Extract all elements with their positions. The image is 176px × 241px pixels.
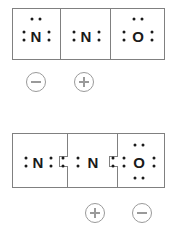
lone-pair-dot (123, 165, 126, 168)
lone-pair-dot (77, 165, 80, 168)
lone-pair-dot (77, 157, 80, 160)
lone-pair-dot (153, 157, 156, 160)
lone-pair-dot (50, 157, 53, 160)
lone-pair-dot (123, 157, 126, 160)
lone-pair-dot (48, 31, 51, 34)
lone-pair-dot (141, 18, 144, 21)
lone-pair-dot (31, 18, 34, 21)
lone-pair-dot (48, 39, 51, 42)
atom-label-oxygen-right: O (133, 154, 145, 171)
lone-pair-dot (112, 165, 115, 168)
lone-pair-dot (151, 39, 154, 42)
atom-label-nitrogen-center: N (81, 28, 92, 45)
lone-pair-dot (98, 31, 101, 34)
resonance-structure-2: N N O (12, 133, 165, 188)
plus-icon (94, 208, 95, 218)
lone-pair-dot (142, 177, 145, 180)
atom-label-nitrogen-left: N (33, 154, 44, 171)
resonance-structure-1: N N O (12, 8, 165, 60)
lone-pair-dot (62, 157, 65, 160)
lewis-structure-diagram: N N O (0, 0, 176, 241)
lone-pair-dot (134, 177, 137, 180)
lone-pair-dot (25, 165, 28, 168)
lone-pair-dot (142, 144, 145, 147)
lone-pair-dot (134, 144, 137, 147)
lone-pair-dot (151, 31, 154, 34)
lone-pair-dot (98, 39, 101, 42)
formal-charge-positive (74, 72, 94, 92)
lone-pair-dot (50, 165, 53, 168)
lone-pair-dot (39, 18, 42, 21)
lone-pair-dot (123, 31, 126, 34)
formal-charge-negative (132, 203, 152, 223)
lone-pair-dot (123, 39, 126, 42)
lone-pair-dot (153, 165, 156, 168)
lone-pair-dot (62, 165, 65, 168)
plus-icon (83, 77, 84, 87)
lone-pair-dot (73, 39, 76, 42)
atom-label-nitrogen-center: N (88, 154, 99, 171)
formal-charge-negative (26, 72, 46, 92)
atom-label-nitrogen-left: N (31, 28, 42, 45)
lone-pair-dot (23, 31, 26, 34)
lone-pair-dot (73, 31, 76, 34)
lone-pair-dot (112, 157, 115, 160)
minus-icon (31, 81, 41, 82)
minus-icon (137, 212, 147, 213)
lone-pair-dot (25, 157, 28, 160)
lone-pair-dot (23, 39, 26, 42)
atom-label-oxygen-right: O (132, 28, 144, 45)
formal-charges-structure-1 (0, 72, 176, 98)
formal-charges-structure-2 (0, 203, 176, 229)
formal-charge-positive (85, 203, 105, 223)
lone-pair-dot (133, 18, 136, 21)
